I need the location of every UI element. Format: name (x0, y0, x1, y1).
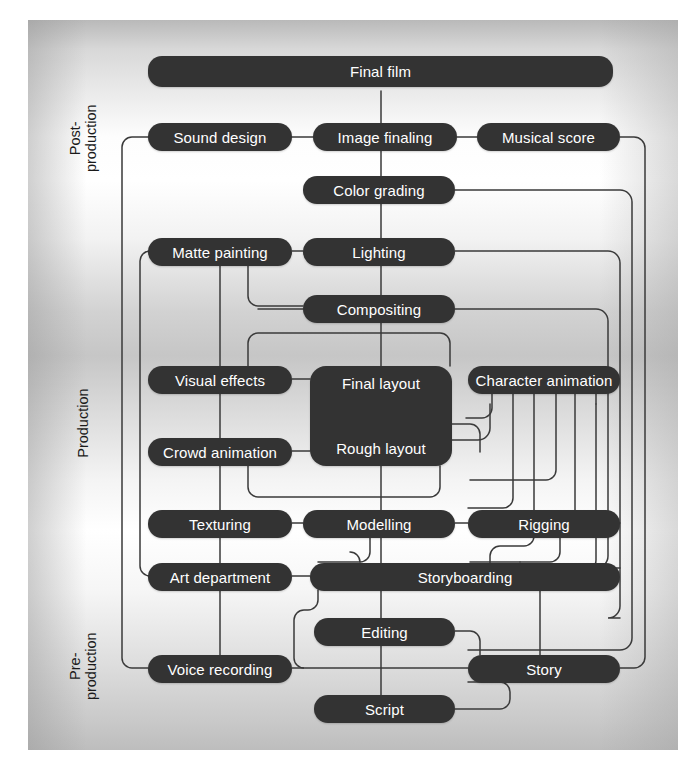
node-art-department[interactable]: Art department (148, 563, 292, 591)
phase-label-post: Post- production (67, 83, 99, 193)
node-final-layout-label: Final layout (310, 375, 452, 392)
node-visual-effects[interactable]: Visual effects (148, 366, 292, 394)
phase-label-pre: Pre- production (67, 611, 99, 721)
node-lighting[interactable]: Lighting (303, 238, 455, 266)
node-editing[interactable]: Editing (314, 618, 455, 646)
node-script[interactable]: Script (314, 695, 455, 723)
node-texturing[interactable]: Texturing (148, 510, 292, 538)
node-image-finaling[interactable]: Image finaling (313, 123, 457, 151)
node-matte-painting[interactable]: Matte painting (148, 238, 292, 266)
node-crowd-animation[interactable]: Crowd animation (148, 438, 292, 466)
node-sound-design[interactable]: Sound design (148, 123, 292, 151)
node-final-film[interactable]: Final film (148, 56, 613, 87)
diagram-canvas: Post- production Production Pre- product… (0, 0, 700, 776)
node-modelling[interactable]: Modelling (303, 510, 455, 538)
node-storyboarding[interactable]: Storyboarding (310, 563, 620, 591)
node-rigging[interactable]: Rigging (468, 510, 620, 538)
node-character-animation[interactable]: Character animation (468, 366, 620, 394)
node-story[interactable]: Story (468, 655, 620, 683)
phase-label-production: Production (75, 368, 91, 478)
node-musical-score[interactable]: Musical score (477, 123, 620, 151)
node-voice-recording[interactable]: Voice recording (148, 655, 292, 683)
node-color-grading[interactable]: Color grading (303, 176, 455, 204)
node-layout-group[interactable]: Final layout Rough layout (310, 366, 452, 466)
node-compositing[interactable]: Compositing (303, 295, 455, 323)
node-rough-layout-label: Rough layout (310, 440, 452, 457)
